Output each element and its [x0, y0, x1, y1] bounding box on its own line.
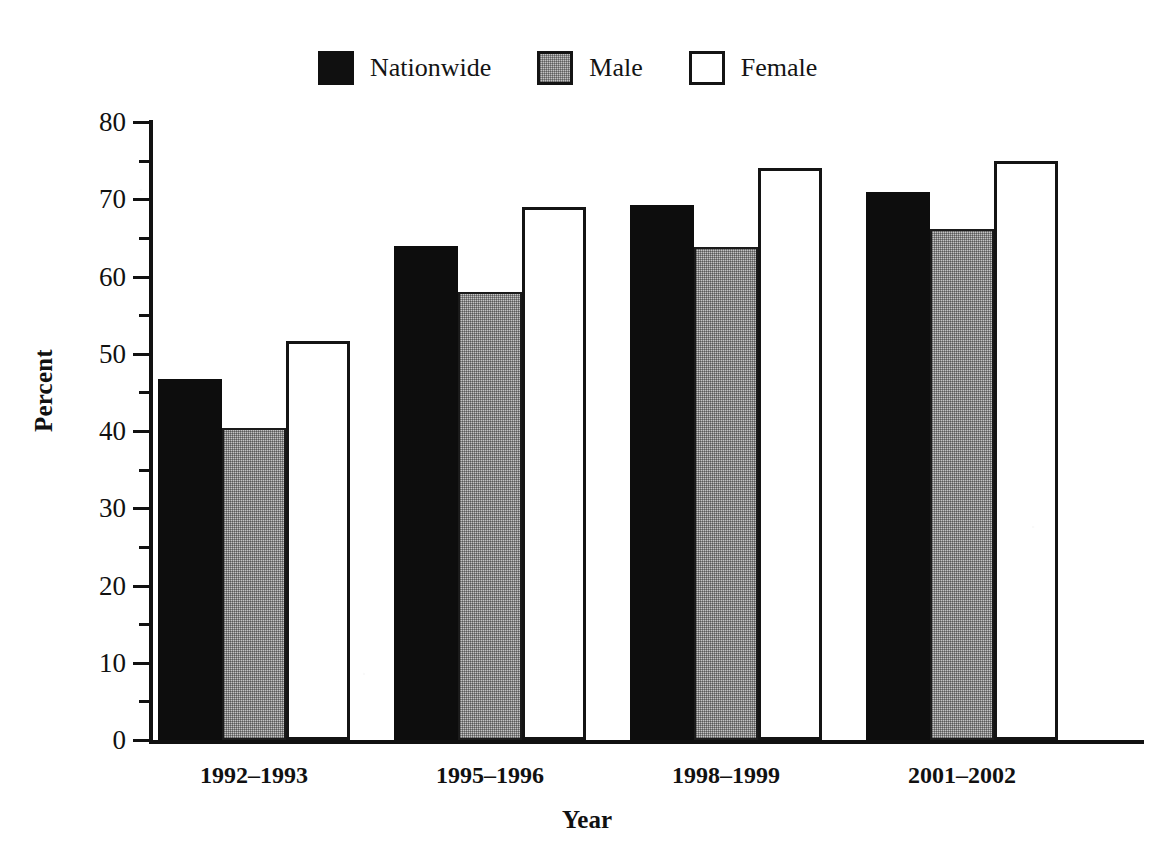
x-axis-line: [149, 740, 1144, 744]
x-tick-label: 1992–1993: [200, 762, 308, 789]
y-tick-minor: [139, 237, 149, 240]
y-tick-minor: [139, 469, 149, 472]
bar-female-1992–1993: [286, 341, 350, 740]
y-tick-major: [133, 121, 149, 124]
bar-male-1995–1996: [458, 292, 522, 740]
y-tick-label: 80: [99, 109, 126, 136]
y-tick-major: [133, 507, 149, 510]
bar-female-1998–1999: [758, 168, 822, 740]
y-tick-minor: [139, 623, 149, 626]
y-tick-major: [133, 662, 149, 665]
legend-swatch-male: [537, 51, 573, 85]
chart-figure: NationwideMaleFemale Percent 01020304050…: [0, 0, 1174, 864]
y-tick-minor: [139, 391, 149, 394]
y-tick-major: [133, 198, 149, 201]
y-tick-major: [133, 353, 149, 356]
legend-entry-nationwide: Nationwide: [318, 51, 491, 85]
y-tick-label: 40: [99, 418, 126, 445]
y-axis-label: Percent: [30, 349, 58, 432]
chart-legend: NationwideMaleFemale: [318, 46, 817, 90]
plot-area: 010203040506070801992–19931995–19961998–…: [152, 122, 1140, 740]
bar-female-2001–2002: [994, 161, 1058, 740]
y-tick-label: 30: [99, 495, 126, 522]
legend-label-nationwide: Nationwide: [370, 55, 491, 81]
y-tick-major: [133, 430, 149, 433]
x-axis-label: Year: [0, 806, 1174, 834]
legend-entry-female: Female: [689, 51, 818, 85]
x-tick-label: 1995–1996: [436, 762, 544, 789]
x-tick-label: 2001–2002: [908, 762, 1016, 789]
y-tick-label: 0: [113, 727, 127, 754]
y-tick-label: 20: [99, 572, 126, 599]
y-tick-label: 50: [99, 340, 126, 367]
bar-nationwide-2001–2002: [866, 192, 930, 740]
y-tick-minor: [139, 700, 149, 703]
y-axis-line: [149, 120, 153, 742]
legend-label-male: Male: [589, 55, 642, 81]
legend-swatch-nationwide: [318, 51, 354, 85]
y-tick-label: 60: [99, 263, 126, 290]
bar-male-1998–1999: [694, 247, 758, 740]
y-tick-major: [133, 739, 149, 742]
bar-nationwide-1995–1996: [394, 246, 458, 740]
y-tick-major: [133, 276, 149, 279]
bar-male-1992–1993: [222, 428, 286, 740]
y-tick-minor: [139, 546, 149, 549]
bar-nationwide-1998–1999: [630, 205, 694, 740]
bar-male-2001–2002: [930, 229, 994, 740]
y-tick-label: 70: [99, 186, 126, 213]
y-tick-minor: [139, 160, 149, 163]
bar-nationwide-1992–1993: [158, 379, 222, 740]
y-tick-major: [133, 585, 149, 588]
legend-swatch-female: [689, 51, 725, 85]
y-tick-label: 10: [99, 649, 126, 676]
x-tick-label: 1998–1999: [672, 762, 780, 789]
y-tick-minor: [139, 314, 149, 317]
bar-female-1995–1996: [522, 207, 586, 740]
legend-label-female: Female: [741, 55, 818, 81]
legend-entry-male: Male: [537, 51, 642, 85]
